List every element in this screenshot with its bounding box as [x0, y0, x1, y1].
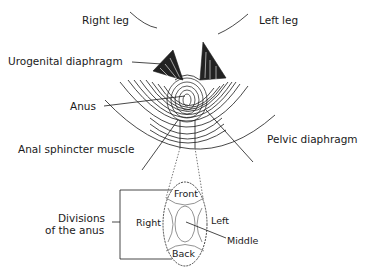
right-leg-outline — [130, 12, 157, 28]
urogenital-diaphragm-right — [200, 42, 226, 80]
label-anus: Anus — [70, 100, 96, 112]
anus-rings — [167, 78, 207, 122]
label-urogenital-diaphragm: Urogenital diaphragm — [8, 55, 123, 67]
urogenital-leader — [132, 62, 162, 64]
label-left-leg: Left leg — [259, 14, 298, 26]
division-middle: Middle — [227, 235, 258, 247]
sphincter-leader — [142, 120, 178, 170]
division-right: Right — [136, 217, 161, 229]
label-anal-sphincter-muscle: Anal sphincter muscle — [18, 143, 134, 155]
division-back: Back — [172, 248, 195, 260]
left-leg-outline — [218, 14, 248, 34]
division-front: Front — [174, 188, 198, 200]
label-divisions-line1: Divisions — [58, 212, 105, 224]
label-pelvic-diaphragm: Pelvic diaphragm — [267, 133, 358, 145]
division-left: Left — [211, 215, 229, 227]
label-divisions-line2: of the anus — [45, 224, 104, 236]
label-right-leg: Right leg — [82, 14, 129, 26]
